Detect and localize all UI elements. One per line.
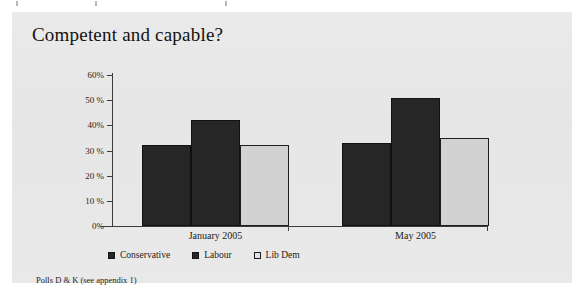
x-axis-group-label: May 2005 [320,230,511,241]
bar-lib-dem-may-2005 [440,138,489,226]
legend-swatch-icon [108,252,115,259]
legend-item-conservative: Conservative [108,250,170,260]
chart-figure: Competent and capable? 0%10 %20 %30 %40%… [0,0,586,289]
bar-conservative-may-2005 [342,143,391,226]
page-artifact-mark [95,1,97,6]
bar-lib-dem-january-2005 [240,145,289,226]
page-artifact-mark [225,1,227,6]
chart-title: Competent and capable? [32,24,223,46]
legend-swatch-icon [192,252,199,259]
chart-footnote: Polls D & K (see appendix 1) [36,275,137,285]
plot-area: 0%10 %20 %30 %40%50 %60% January 2005May… [12,58,572,236]
scanned-page-artifact [0,0,586,11]
legend-label: Conservative [120,250,170,260]
legend-label: Lib Dem [266,250,300,260]
chart-panel: Competent and capable? 0%10 %20 %30 %40%… [12,12,572,283]
legend-swatch-icon [254,252,261,259]
bars-layer [12,58,572,236]
bar-labour-may-2005 [391,98,440,226]
bar-labour-january-2005 [191,120,240,226]
page-artifact-mark [16,1,18,6]
x-axis-group-label: January 2005 [120,230,311,241]
legend-item-lib-dem: Lib Dem [254,250,300,260]
chart-legend: ConservativeLabourLib Dem [108,250,300,260]
legend-label: Labour [204,250,231,260]
bar-conservative-january-2005 [142,145,191,226]
legend-item-labour: Labour [192,250,231,260]
